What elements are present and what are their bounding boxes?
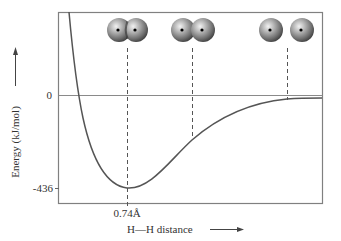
y-axis-label: Energy (kJ/mol): [9, 106, 22, 178]
y-tick-label-min: -436: [33, 182, 54, 194]
x-axis-arrow-icon: [210, 227, 244, 232]
x-tick-label-min: 0.74Å: [113, 207, 140, 219]
y-tick-label-zero: 0: [47, 89, 53, 101]
molecule-compressed: [107, 18, 148, 42]
nucleus-dot: [133, 28, 136, 31]
x-axis-label: H—H distance: [127, 223, 193, 235]
molecule-separated: [259, 18, 314, 42]
molecule-touching: [171, 18, 215, 42]
nucleus-dot: [180, 28, 183, 31]
plot-frame: [59, 13, 323, 204]
nucleus-dot: [116, 28, 119, 31]
nucleus-dot: [268, 28, 271, 31]
nucleus-dot: [299, 28, 302, 31]
nucleus-dot: [200, 28, 203, 31]
potential-energy-chart: 0 -436 0.74Å H—H distance Energy (kJ/mol…: [0, 0, 341, 241]
y-axis-arrow-icon: [13, 47, 18, 86]
